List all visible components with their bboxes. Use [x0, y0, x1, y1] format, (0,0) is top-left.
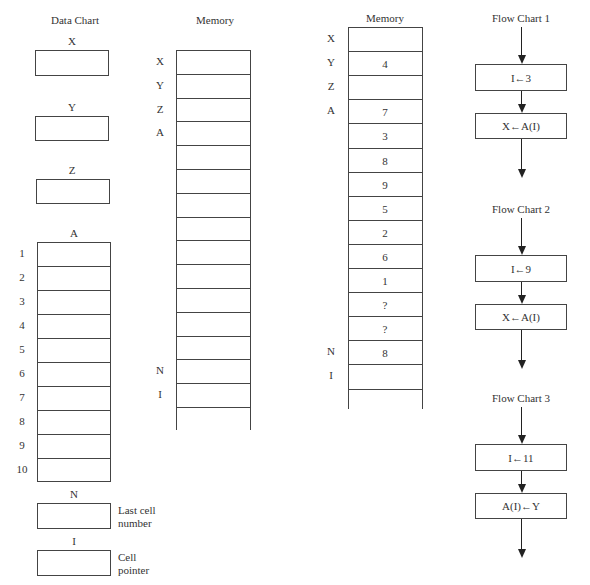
memory-cell	[176, 121, 250, 145]
memory-cell: 1	[348, 268, 422, 292]
flow-arrow-line	[521, 407, 522, 436]
memory-cell	[176, 288, 250, 312]
memory-cell: 3	[348, 123, 422, 147]
memory-cell	[176, 359, 250, 383]
memory-last-divider	[176, 407, 250, 408]
flow-step-box: I←9	[475, 255, 567, 282]
n-box	[37, 503, 111, 529]
a-index-label: 6	[12, 367, 32, 379]
memory-left-edge	[176, 50, 177, 430]
a-array-cell	[37, 290, 111, 314]
data-chart-title: Data Chart	[30, 14, 120, 26]
a-array-cell	[37, 314, 111, 338]
y-label: Y	[35, 101, 109, 113]
memory-address-label: X	[321, 32, 341, 44]
flow-step-box: X←A(I)	[475, 304, 567, 330]
flow-arrow-line	[521, 27, 522, 56]
memory-address-label: A	[321, 104, 341, 116]
memory-address-label: Y	[321, 56, 341, 68]
a-index-label: 3	[12, 295, 32, 307]
n-description-line1: Last cell	[118, 504, 156, 517]
memory-cell: 8	[348, 148, 422, 172]
memory-cell	[176, 169, 250, 193]
flow-chart-title: Flow Chart 3	[471, 392, 571, 404]
memory-cell	[348, 75, 422, 99]
flow-arrow-line	[521, 218, 522, 247]
memory-cell: ?	[348, 292, 422, 316]
flow-arrow-line	[521, 282, 522, 296]
memory-cell: 9	[348, 172, 422, 196]
memory-address-label: Z	[150, 103, 170, 115]
flow-arrow-line	[521, 471, 522, 485]
i-label: I	[37, 535, 111, 547]
memory-right-edge	[422, 27, 423, 409]
x-box	[35, 50, 109, 76]
a-array-cell	[37, 362, 111, 386]
memory-address-label: N	[150, 364, 170, 376]
memory-cell	[176, 240, 250, 264]
a-array-cell	[37, 434, 111, 458]
flow-step-box: I←3	[475, 64, 567, 91]
memory-cell	[176, 336, 250, 360]
memory-address-label: A	[150, 126, 170, 138]
memory-cell: 8	[348, 340, 422, 364]
memory-cell: 4	[348, 51, 422, 75]
memory-cell	[176, 74, 250, 98]
memory-cell: 5	[348, 196, 422, 220]
a-array-cell	[37, 386, 111, 410]
a-array-cell	[37, 410, 111, 434]
a-index-label: 8	[12, 415, 32, 427]
arrow-down-icon	[518, 435, 526, 444]
a-index-label: 5	[12, 343, 32, 355]
flow-chart-title: Flow Chart 1	[471, 12, 571, 24]
flow-step-box: X←A(I)	[475, 113, 567, 139]
flow-arrow-line	[521, 91, 522, 105]
memory-filled-title: Memory	[340, 12, 430, 24]
memory-cell	[176, 98, 250, 122]
memory-cell	[176, 217, 250, 241]
memory-address-label: I	[150, 388, 170, 400]
memory-address-label: N	[321, 345, 341, 357]
z-box	[36, 179, 110, 204]
i-box	[37, 550, 111, 576]
memory-empty-title: Memory	[170, 14, 260, 26]
x-label: X	[35, 35, 109, 47]
memory-cell	[176, 145, 250, 169]
memory-cell	[176, 193, 250, 217]
arrow-down-icon	[518, 549, 526, 558]
n-label: N	[37, 488, 111, 500]
arrow-down-icon	[518, 295, 526, 304]
a-index-label: 1	[12, 247, 32, 259]
z-label: Z	[35, 164, 109, 176]
memory-cell	[176, 383, 250, 407]
flow-step-box: A(I)←Y	[475, 493, 567, 519]
memory-cell: 2	[348, 220, 422, 244]
arrow-down-icon	[518, 104, 526, 113]
a-array-cell	[37, 338, 111, 362]
memory-cell: 6	[348, 244, 422, 268]
i-description: Cell pointer	[118, 551, 149, 577]
a-array-cell	[37, 266, 111, 290]
a-array-label: A	[37, 227, 111, 239]
flow-step-box: I←11	[475, 444, 567, 471]
memory-cell: 7	[348, 99, 422, 123]
memory-cell	[176, 312, 250, 336]
flow-arrow-line	[521, 519, 522, 550]
a-index-label: 4	[12, 319, 32, 331]
memory-last-divider	[348, 389, 422, 390]
arrow-down-icon	[518, 484, 526, 493]
a-index-label: 9	[12, 439, 32, 451]
memory-cell	[348, 27, 422, 51]
flow-arrow-line	[521, 330, 522, 361]
arrow-down-icon	[518, 55, 526, 64]
memory-left-edge	[348, 27, 349, 409]
memory-right-edge	[250, 50, 251, 430]
i-description-line1: Cell	[118, 551, 149, 564]
memory-address-label: I	[321, 369, 341, 381]
memory-cell	[348, 364, 422, 388]
a-index-label: 2	[12, 271, 32, 283]
memory-address-label: X	[150, 55, 170, 67]
memory-cell	[176, 50, 250, 74]
arrow-down-icon	[518, 169, 526, 178]
n-description: Last cell number	[118, 504, 156, 530]
